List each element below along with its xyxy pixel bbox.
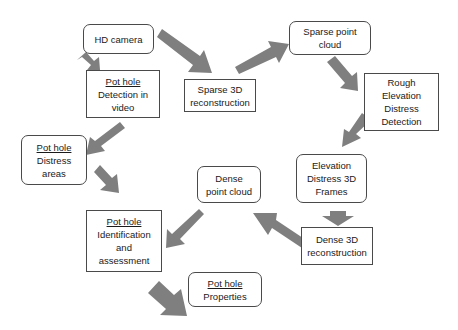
node-elevation-line2: Distress 3D	[307, 172, 356, 185]
node-sparse-3d-reconstruction: Sparse 3D reconstruction	[184, 79, 256, 112]
node-sparse3d-line2: reconstruction	[190, 96, 250, 109]
arrow-hdcamera-to-sparse3d	[157, 29, 212, 73]
arrow-densecloud-to-identification	[166, 209, 204, 248]
arrow-identification-to-properties	[148, 281, 187, 316]
node-pothole-identification-assessment: Pot hole Identification and assessment	[86, 210, 162, 272]
arrow-detection-to-distressareas	[86, 122, 125, 155]
node-densecloud-line1: Dense	[215, 172, 242, 185]
node-distressareas-line2: areas	[42, 167, 66, 180]
node-sparsecloud-line2: cloud	[319, 38, 342, 51]
node-detection-line2: video	[112, 101, 135, 114]
node-properties-title: Pot hole	[208, 277, 243, 290]
node-identification-line2: and	[116, 241, 132, 254]
node-sparse3d-line1: Sparse 3D	[198, 83, 243, 96]
node-detection-title: Pot hole	[106, 75, 141, 88]
node-pothole-detection-video: Pot hole Detection in video	[86, 70, 160, 118]
node-rough-line2: Elevation	[382, 89, 421, 102]
node-dense-point-cloud: Dense point cloud	[197, 166, 261, 203]
node-identification-title: Pot hole	[107, 215, 142, 228]
node-pothole-properties: Pot hole Properties	[188, 272, 262, 307]
node-pothole-distress-areas: Pot hole Distress areas	[21, 135, 87, 185]
node-dense-3d-reconstruction: Dense 3D reconstruction	[301, 227, 373, 265]
node-dense3d-line2: reconstruction	[307, 246, 367, 259]
arrow-sparsecloud-to-rough	[327, 56, 358, 91]
node-distressareas-line1: Distress	[37, 154, 71, 167]
arrow-dense3d-to-densecloud	[253, 213, 306, 248]
node-identification-line1: Identification	[97, 228, 150, 241]
node-detection-line1: Detection in	[98, 88, 148, 101]
node-sparse-point-cloud: Sparse point cloud	[289, 21, 371, 55]
node-properties-line1: Properties	[203, 290, 246, 303]
node-identification-line3: assessment	[99, 254, 150, 267]
node-hd-camera-label: HD camera	[94, 33, 142, 46]
node-densecloud-line2: point cloud	[206, 185, 252, 198]
node-hd-camera: HD camera	[83, 24, 154, 54]
arrow-sparse3d-to-sparsecloud	[235, 41, 289, 74]
node-rough-line1: Rough	[388, 76, 416, 89]
node-dense3d-line1: Dense 3D	[316, 233, 358, 246]
node-rough-elevation-distress-detection: Rough Elevation Distress Detection	[364, 73, 439, 131]
arrow-elevation-to-dense3d	[322, 211, 354, 226]
node-rough-line3: Distress	[384, 102, 418, 115]
arrow-distressareas-to-identification	[94, 165, 119, 193]
node-elevation-line3: Frames	[315, 185, 347, 198]
node-distressareas-title: Pot hole	[37, 141, 72, 154]
node-elevation-line1: Elevation	[312, 159, 351, 172]
node-elevation-distress-3d-frames: Elevation Distress 3D Frames	[296, 154, 367, 203]
node-rough-line4: Detection	[381, 115, 421, 128]
node-sparsecloud-line1: Sparse point	[303, 25, 356, 38]
arrow-hdcamera-to-detection	[77, 52, 100, 70]
